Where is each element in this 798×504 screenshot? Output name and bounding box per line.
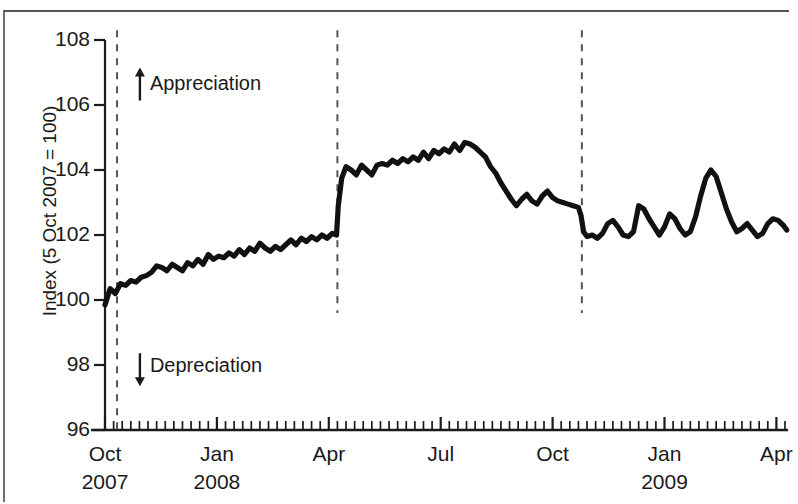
x-tick-label-1: Jan bbox=[172, 442, 262, 466]
arrow-up-head bbox=[135, 68, 145, 77]
y-tick-label-96: 96 bbox=[40, 417, 90, 441]
x-tick-label-3: Jul bbox=[396, 442, 486, 466]
x-tick-label-6: Apr bbox=[731, 442, 798, 466]
x-tick-label-5: Jan bbox=[619, 442, 709, 466]
x-tick-year-2007: 2007 bbox=[60, 470, 150, 494]
y-tick-label-106: 106 bbox=[40, 92, 90, 116]
annotation-arrows bbox=[135, 68, 145, 387]
y-tick-label-102: 102 bbox=[40, 222, 90, 246]
y-tick-label-104: 104 bbox=[40, 157, 90, 181]
x-tick-year-2008: 2008 bbox=[172, 470, 262, 494]
x-tick-year-2009: 2009 bbox=[619, 470, 709, 494]
annotation-appreciation: Appreciation bbox=[150, 72, 261, 95]
data-series bbox=[105, 142, 787, 305]
x-tick-label-2: Apr bbox=[284, 442, 374, 466]
annotation-depreciation: Depreciation bbox=[150, 354, 262, 377]
x-tick-label-4: Oct bbox=[508, 442, 598, 466]
arrow-down-head bbox=[135, 377, 145, 386]
y-tick-label-108: 108 bbox=[40, 27, 90, 51]
y-tick-label-100: 100 bbox=[40, 287, 90, 311]
x-tick-label-0: Oct bbox=[60, 442, 150, 466]
y-tick-label-98: 98 bbox=[40, 352, 90, 376]
series-line-0 bbox=[105, 142, 787, 305]
